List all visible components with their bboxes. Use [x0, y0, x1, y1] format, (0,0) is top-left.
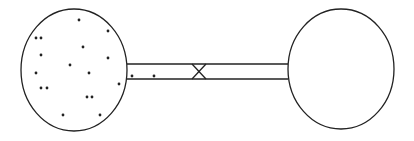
- gas-particle-dot-icon: [62, 114, 65, 117]
- stopcock-bowtie-icon: [192, 64, 206, 79]
- gas-particle-dot-icon: [107, 57, 110, 60]
- gas-particle-dot-icon: [86, 96, 89, 99]
- left-flask: [21, 9, 127, 131]
- connecting-tube: [127, 64, 288, 79]
- gas-particle-dot-icon: [40, 87, 43, 90]
- left-flask-outline: [21, 9, 127, 131]
- gas-particle-dot-icon: [153, 75, 156, 78]
- right-flask: [288, 9, 394, 129]
- two-flask-diffusion-diagram: [0, 0, 414, 141]
- gas-particle-dot-icon: [107, 30, 110, 33]
- gas-particle-dot-icon: [46, 87, 49, 90]
- gas-particle-dot-icon: [82, 46, 85, 49]
- gas-particle-dot-icon: [131, 75, 134, 78]
- gas-particle-dot-icon: [118, 83, 121, 86]
- gas-particle-dot-icon: [35, 72, 38, 75]
- gas-particle-dot-icon: [69, 64, 72, 67]
- gas-particle-dot-icon: [40, 37, 43, 40]
- gas-particle-dot-icon: [91, 96, 94, 99]
- gas-particle-dot-icon: [40, 54, 43, 57]
- gas-particle-dot-icon: [35, 37, 38, 40]
- gas-particle-dot-icon: [88, 72, 91, 75]
- gas-particle-dot-icon: [78, 19, 81, 22]
- gas-particle-dot-icon: [99, 114, 102, 117]
- right-flask-outline: [288, 9, 394, 129]
